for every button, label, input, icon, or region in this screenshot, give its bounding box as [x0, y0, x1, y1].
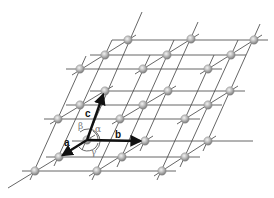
atom [118, 153, 126, 161]
atom [93, 167, 101, 175]
atom [204, 101, 212, 109]
atom [54, 115, 62, 123]
angle-beta-label: β [78, 121, 83, 131]
crystal-lattice-diagram: c b a β α γ [0, 0, 274, 198]
atom [31, 167, 39, 175]
atom [181, 115, 189, 123]
basis-vectors [63, 95, 140, 155]
vector-b-label: b [115, 129, 121, 140]
atom [181, 153, 189, 161]
lattice-svg: c b a β α γ [0, 0, 274, 198]
atom [101, 87, 109, 95]
vector-c-label: c [85, 108, 91, 119]
lattice-lines-a [8, 34, 262, 188]
angle-gamma-label: γ [91, 147, 96, 157]
atom [55, 153, 63, 161]
atom [76, 65, 84, 73]
atom [226, 87, 234, 95]
vector-a-label: a [64, 137, 70, 148]
atom [204, 137, 212, 145]
atom [164, 87, 172, 95]
atom [250, 36, 258, 44]
angle-alpha-label: α [95, 124, 101, 134]
atom [187, 35, 195, 43]
atom [76, 101, 84, 109]
atom [124, 36, 132, 44]
atom [158, 167, 166, 175]
atom [204, 65, 212, 73]
atom [141, 137, 149, 145]
atom [163, 51, 171, 59]
vector-b-arrow [87, 140, 140, 141]
atom [227, 51, 235, 59]
atom [116, 115, 124, 123]
atom [139, 65, 147, 73]
atom [101, 51, 109, 59]
atom [139, 101, 147, 109]
